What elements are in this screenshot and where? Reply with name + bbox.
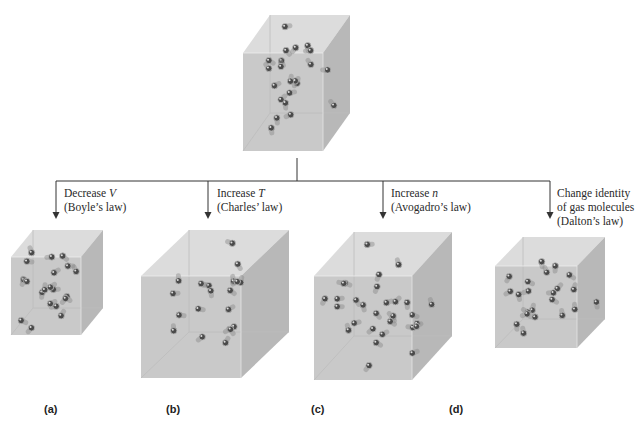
top-gas-cube (0, 0, 638, 426)
caption-b: (b) (166, 403, 180, 415)
caption-d: (d) (449, 403, 463, 415)
caption-c: (c) (311, 403, 324, 415)
caption-a: (a) (44, 403, 57, 415)
